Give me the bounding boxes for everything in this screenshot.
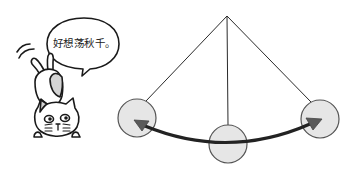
motion-lines-icon [17, 44, 30, 52]
pendulum-string-left [146, 16, 227, 101]
cat-paw-right [72, 132, 80, 137]
pendulum-string-right [227, 16, 311, 102]
speech-bubble-text: 好想荡秋千。 [52, 35, 116, 50]
pendulum-string-center [227, 16, 228, 125]
cat-paw-left [34, 132, 42, 137]
illustration-canvas [0, 0, 354, 175]
pendulum-bob-left [118, 99, 156, 137]
pendulum-diagram [118, 16, 339, 163]
